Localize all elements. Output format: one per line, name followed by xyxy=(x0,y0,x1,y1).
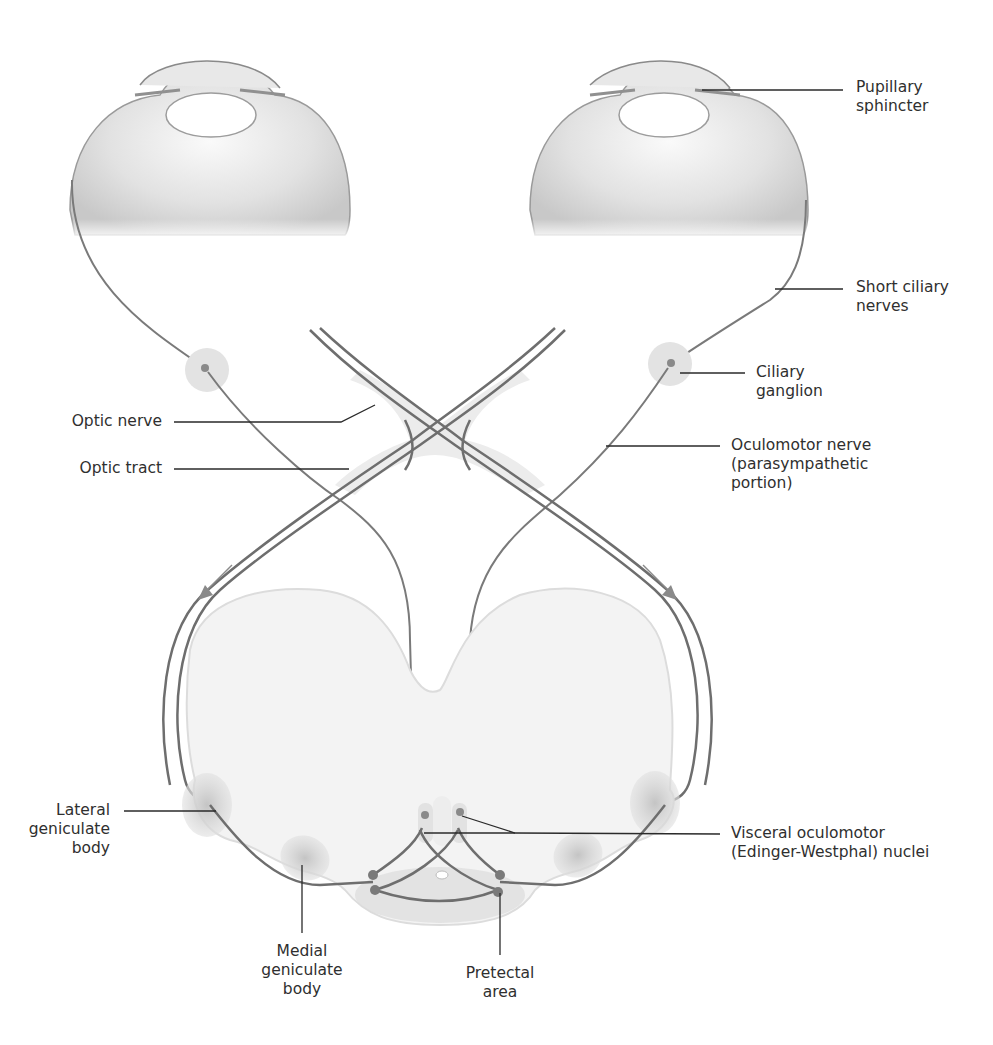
optic-chiasm xyxy=(335,370,545,495)
right-eyeball xyxy=(520,61,820,240)
label-short-ciliary-nerves: Short ciliary nerves xyxy=(856,278,949,316)
left-eyeball xyxy=(60,61,360,240)
label-oculomotor-nerve: Oculomotor nerve (parasympathetic portio… xyxy=(731,436,871,493)
label-ciliary-ganglion: Ciliary ganglion xyxy=(756,363,823,401)
left-lateral-geniculate-body xyxy=(182,773,232,837)
label-optic-nerve: Optic nerve xyxy=(40,412,162,431)
label-pretectal-area: Pretectal area xyxy=(450,964,550,1002)
label-lateral-geniculate-body: Lateral geniculate body xyxy=(10,801,110,858)
label-visceral-oculomotor-nuclei: Visceral oculomotor (Edinger-Westphal) n… xyxy=(731,824,929,862)
label-optic-tract: Optic tract xyxy=(40,459,162,478)
pupillary-reflex-diagram xyxy=(0,0,993,1045)
label-pupillary-sphincter: Pupillary sphincter xyxy=(856,78,928,116)
label-medial-geniculate-body: Medial geniculate body xyxy=(250,942,354,999)
right-lateral-geniculate-body xyxy=(630,771,680,835)
